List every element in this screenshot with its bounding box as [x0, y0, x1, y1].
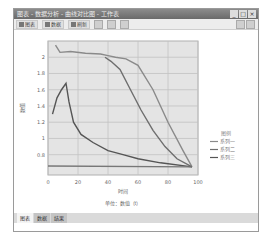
x-tick-label: 20	[75, 179, 81, 185]
series-line	[48, 166, 192, 167]
y-tick-label: 1.4	[37, 103, 45, 109]
help-icon[interactable]	[236, 20, 245, 29]
y-axis-label: 数值	[19, 103, 26, 113]
x-tick-label: 80	[165, 179, 171, 185]
maximize-button[interactable]: □	[239, 10, 247, 18]
bar-chart-icon[interactable]	[94, 20, 103, 29]
chart-window: 图表 - 数据分析 - 曲线对比图 - 工作表 _ □ × 图表 数据 刷新 0…	[13, 8, 259, 232]
y-tick-label: 1.8	[37, 70, 45, 76]
toolbar-right	[236, 20, 255, 29]
title-bar[interactable]: 图表 - 数据分析 - 曲线对比图 - 工作表 _ □ ×	[14, 9, 258, 19]
toolbar-data-button[interactable]: 数据	[42, 20, 64, 29]
close-button[interactable]: ×	[248, 10, 256, 18]
chart-icon	[19, 22, 24, 27]
line-chart: 0204060801000.811.21.41.61.82时间单位：数值（t）数…	[14, 31, 258, 207]
toolbar-chart-label: 图表	[25, 21, 35, 28]
toolbar-data-label: 数据	[51, 21, 61, 28]
y-tick-label: 2	[42, 54, 45, 60]
y-tick-label: 0.8	[37, 152, 45, 158]
toolbar-chart-button[interactable]: 图表	[16, 20, 38, 29]
legend-entry: 系列一	[220, 138, 235, 145]
sheet-tab-result[interactable]: 结果	[51, 213, 67, 223]
close-icon[interactable]	[246, 20, 255, 29]
legend-title: 图例	[221, 130, 231, 137]
toolbar-refresh-label: 刷新	[77, 21, 87, 28]
refresh-icon	[71, 22, 76, 27]
toolbar-refresh-button[interactable]: 刷新	[68, 20, 90, 29]
sheet-tabs: 图表 数据 结果	[14, 213, 258, 223]
y-tick-label: 1	[42, 135, 45, 141]
x-tick-label: 40	[105, 179, 111, 185]
legend-entry: 系列二	[220, 146, 235, 153]
chart-area: 0204060801000.811.21.41.61.82时间单位：数值（t）数…	[14, 31, 258, 207]
sheet-tab-chart[interactable]: 图表	[17, 213, 33, 223]
sheet-tab-data[interactable]: 数据	[34, 213, 50, 223]
line-chart-icon[interactable]	[107, 20, 116, 29]
minimize-button[interactable]: _	[230, 10, 238, 18]
save-icon[interactable]	[120, 20, 129, 29]
data-icon	[45, 22, 50, 27]
window-controls: _ □ ×	[230, 10, 256, 18]
x-tick-label: 0	[46, 179, 49, 185]
y-tick-label: 1.6	[37, 87, 45, 93]
chart-caption: 单位：数值（t）	[105, 200, 142, 207]
x-tick-label: 60	[135, 179, 141, 185]
y-tick-label: 1.2	[37, 119, 45, 125]
window-title: 图表 - 数据分析 - 曲线对比图 - 工作表	[17, 9, 119, 19]
x-axis-label: 时间	[118, 188, 128, 195]
legend-entry: 系列三	[220, 154, 235, 161]
x-tick-label: 100	[193, 179, 203, 185]
toolbar: 图表 数据 刷新	[14, 19, 258, 30]
